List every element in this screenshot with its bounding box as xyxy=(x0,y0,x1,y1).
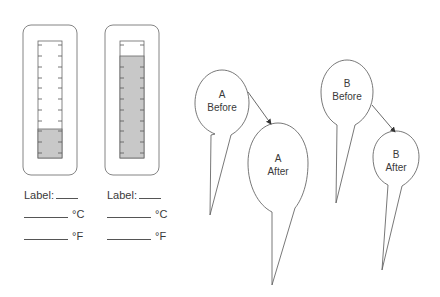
balloon-letter: A xyxy=(197,88,247,101)
fahrenheit-unit: °F xyxy=(72,230,83,242)
balloon-letter: B xyxy=(371,148,421,161)
label-left: Label: xyxy=(24,189,78,201)
balloon-state: Before xyxy=(197,101,247,114)
balloon-b-before-label: B Before xyxy=(322,77,372,103)
celsius-blank[interactable] xyxy=(107,216,151,218)
thermometer-right xyxy=(105,25,159,175)
label-text: Label: xyxy=(24,189,54,201)
arrow-a xyxy=(248,92,271,124)
celsius-row-left: °C xyxy=(24,208,84,220)
arrow-b xyxy=(372,105,395,132)
label-blank[interactable] xyxy=(139,197,161,199)
fahrenheit-blank[interactable] xyxy=(107,238,151,240)
balloon-state: After xyxy=(371,161,421,174)
celsius-unit: °C xyxy=(155,208,167,220)
thermometer-left xyxy=(23,25,77,175)
balloon-a-after-label: A After xyxy=(253,152,303,178)
celsius-row-right: °C xyxy=(107,208,167,220)
label-text: Label: xyxy=(107,189,137,201)
thermometer-fill xyxy=(120,56,144,158)
balloon-b-after-label: B After xyxy=(371,148,421,174)
label-blank[interactable] xyxy=(56,197,78,199)
balloon-letter: B xyxy=(322,77,372,90)
thermometer-fill xyxy=(38,129,62,158)
fahrenheit-row-left: °F xyxy=(24,230,83,242)
balloon-a-before-label: A Before xyxy=(197,88,247,114)
balloon-state: After xyxy=(253,165,303,178)
balloon-a-after xyxy=(248,123,308,285)
balloon-letter: A xyxy=(253,152,303,165)
celsius-blank[interactable] xyxy=(24,216,68,218)
fahrenheit-unit: °F xyxy=(155,230,166,242)
balloon-state: Before xyxy=(322,90,372,103)
fahrenheit-row-right: °F xyxy=(107,230,166,242)
fahrenheit-blank[interactable] xyxy=(24,238,68,240)
label-right: Label: xyxy=(107,189,161,201)
celsius-unit: °C xyxy=(72,208,84,220)
